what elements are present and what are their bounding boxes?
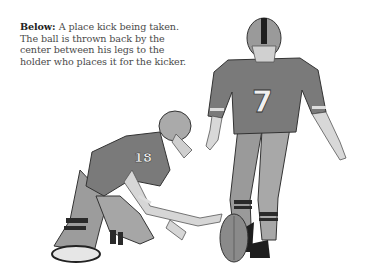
football bbox=[220, 214, 248, 262]
kicker-number: 7 bbox=[252, 84, 273, 119]
place-kick-illustration: 7 18 bbox=[0, 0, 374, 268]
holder-figure: 18 bbox=[52, 111, 222, 262]
holder-number: 18 bbox=[134, 150, 152, 165]
